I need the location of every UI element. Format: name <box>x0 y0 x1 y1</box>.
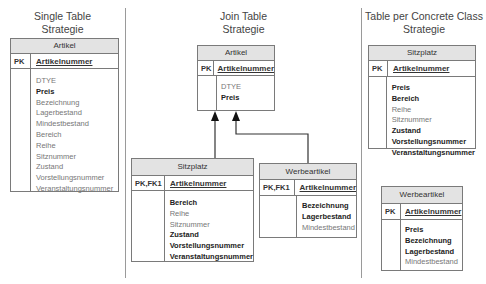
arrow-sitzplatz-to-artikel <box>211 111 219 158</box>
arrow-werbeartikel-to-artikel <box>232 111 308 163</box>
inheritance-arrows <box>0 0 486 284</box>
